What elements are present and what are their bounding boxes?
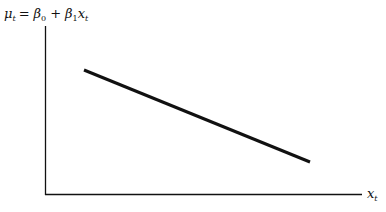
equation-label: μt=β0+β1xt [4, 6, 89, 23]
regression-line [84, 70, 310, 162]
regression-diagram: μt=β0+β1xt xt [0, 0, 386, 212]
x-axis-label: xt [367, 186, 378, 203]
